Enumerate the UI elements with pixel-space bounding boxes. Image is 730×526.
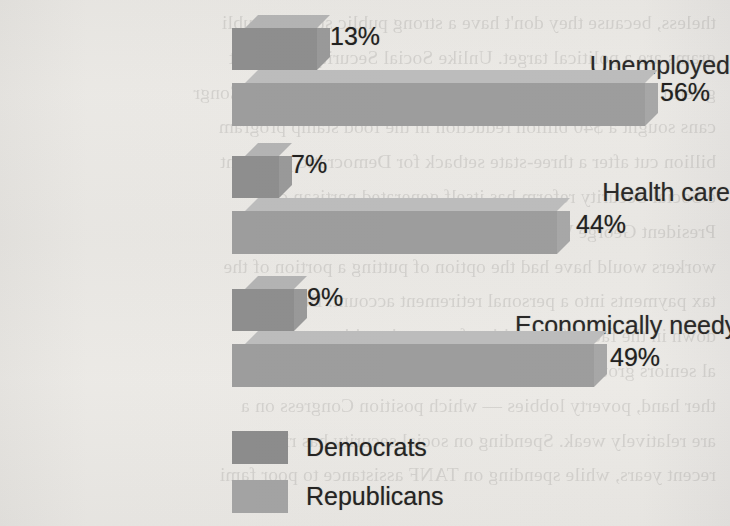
legend-swatch-democrats (232, 431, 288, 464)
legend-label-democrats: Democrats (306, 435, 427, 460)
scanned-chart-page: theless, because they don't have a stron… (0, 0, 730, 526)
legend-label-republicans: Republicans (306, 484, 444, 509)
chart-legend: Democrats Republicans (0, 0, 730, 526)
legend-item-democrats: Democrats (232, 431, 427, 464)
legend-swatch-republicans (232, 480, 288, 513)
legend-item-republicans: Republicans (232, 480, 444, 513)
